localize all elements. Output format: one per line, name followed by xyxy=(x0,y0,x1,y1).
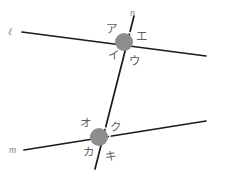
line-label-l: ℓ xyxy=(8,27,12,37)
line-label-m: m xyxy=(9,145,16,155)
geometry-figure: ℓ m n ア エ イ ウ オ ク カ キ xyxy=(0,0,225,175)
lower-intersection-disc xyxy=(90,128,108,146)
angle-label-u: ウ xyxy=(129,56,140,68)
angle-label-ki: キ xyxy=(105,151,116,163)
angle-label-ku: ク xyxy=(110,122,121,134)
angle-label-e: エ xyxy=(136,31,147,43)
angle-label-a: ア xyxy=(106,24,117,36)
angle-label-ka: カ xyxy=(83,147,94,159)
line-label-n: n xyxy=(130,8,135,18)
angle-label-i: イ xyxy=(108,50,119,62)
angle-label-o: オ xyxy=(80,118,91,130)
